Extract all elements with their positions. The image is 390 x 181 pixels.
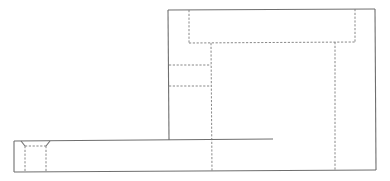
- upright-right-edge-line: [375, 9, 376, 170]
- bore-left-line: [211, 43, 212, 171]
- countersink-right-chamfer-line: [46, 141, 50, 146]
- upright-left-edge-line: [168, 10, 169, 140]
- visible-lines: [14, 9, 376, 172]
- base-top-edge-line: [14, 139, 273, 141]
- technical-drawing: [0, 0, 390, 181]
- hidden-lines: [25, 9, 355, 172]
- channel-bottom-line: [189, 42, 355, 43]
- countersink-left-chamfer-line: [21, 141, 25, 146]
- base-bottom-edge-line: [14, 170, 376, 172]
- upright-top-edge-line: [168, 9, 375, 10]
